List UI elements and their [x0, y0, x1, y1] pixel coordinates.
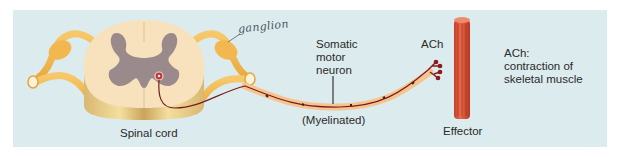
somatic-motor-neuron-label: Somatic motor neuron: [316, 38, 358, 77]
effect-line-1: ACh:: [504, 47, 583, 60]
neuron-label-line-3: neuron: [316, 64, 358, 77]
spinal-cord-section: [84, 20, 205, 120]
effect-line-3: skeletal muscle: [504, 73, 583, 86]
myelinated-label: (Myelinated): [302, 114, 365, 127]
effect-description: ACh: contraction of skeletal muscle: [504, 47, 583, 86]
neuron-label-line-1: Somatic: [316, 38, 358, 51]
effector-label: Effector: [443, 125, 482, 138]
effect-line-2: contraction of: [504, 60, 583, 73]
neuron-label-line-2: motor: [316, 51, 358, 64]
skeletal-muscle-effector: [454, 17, 470, 119]
spinal-cord-label: Spinal cord: [120, 127, 178, 140]
ach-label: ACh: [421, 38, 443, 51]
